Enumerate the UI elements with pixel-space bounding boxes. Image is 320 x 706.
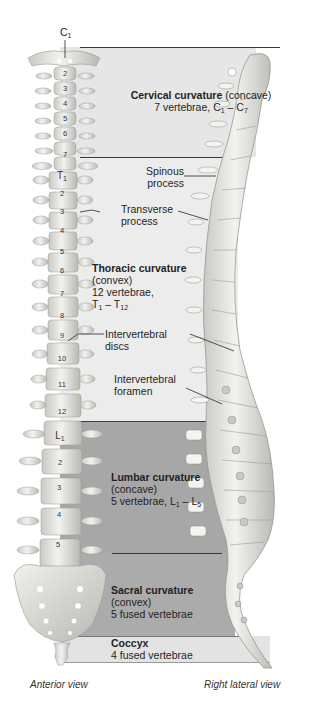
vertebra-label-t1: T1 [52, 170, 72, 181]
lumbar-label: Lumbar curvature (concave) 5 vertebrae, … [111, 471, 201, 509]
lateral-spine [185, 54, 274, 668]
vertebra-label: 6 [55, 129, 75, 138]
vertebra-label: 4 [49, 510, 69, 519]
vertebra-label: 11 [52, 380, 72, 389]
intervertebral-discs-label: Intervertebraldiscs [105, 328, 167, 352]
vertebra-label: 10 [52, 354, 72, 363]
spinous-process-label: Spinousprocess [144, 165, 184, 189]
vertebra-label: 5 [48, 540, 68, 549]
vertebra-label: 3 [49, 483, 69, 492]
coccyx-label: Coccyx 4 fused vertebrae [111, 637, 193, 661]
vertebra-label: 2 [50, 458, 70, 467]
intervertebral-foramen-label: Intervertebralforamen [114, 373, 176, 397]
transverse-process-label: Transverseprocess [121, 203, 173, 227]
anterior-view-caption: Anterior view [30, 679, 88, 690]
vertebra-label: 2 [52, 189, 72, 198]
vertebra-label: 4 [52, 226, 72, 235]
vertebra-label: 6 [52, 266, 72, 275]
vertebra-label: 8 [52, 311, 72, 320]
vertebra-label: 5 [52, 247, 72, 256]
cervical-label: Cervical curvature (concave) 7 vertebrae… [127, 89, 275, 115]
vertebra-label: 12 [52, 407, 72, 416]
vertebra-label: 9 [52, 331, 72, 340]
vertebra-label: 4 [55, 99, 75, 108]
vertebra-label: 7 [52, 289, 72, 298]
vertebra-label: 2 [55, 69, 75, 78]
vertebra-label: 3 [55, 84, 75, 93]
vertebra-label: 5 [55, 114, 75, 123]
sacral-label: Sacral curvature (convex) 5 fused verteb… [111, 584, 193, 620]
vertebra-label: 7 [55, 150, 75, 159]
c1-label: C1 [60, 26, 72, 40]
thoracic-label: Thoracic curvature (convex) 12 vertebrae… [92, 262, 187, 312]
vertebra-label: 3 [52, 207, 72, 216]
right-lateral-view-caption: Right lateral view [204, 679, 280, 690]
vertebra-label-l1: L1 [50, 430, 70, 441]
